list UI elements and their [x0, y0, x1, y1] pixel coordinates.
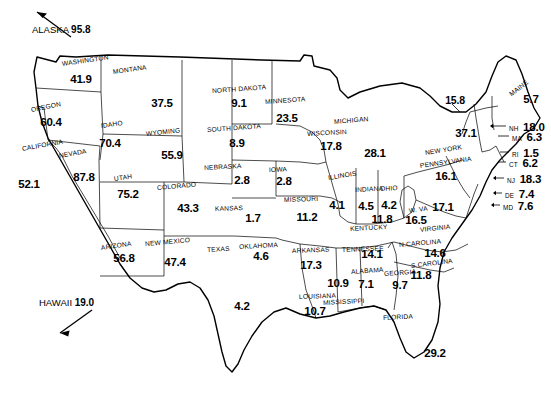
state-wyoming-value: 55.9	[161, 149, 183, 161]
state-kansas-label: KANSAS	[215, 204, 243, 212]
state-wisconsin-value: 17.8	[320, 140, 342, 152]
state-virginia-value: 17.1	[432, 201, 454, 213]
state-kansas-value: 1.7	[245, 212, 260, 224]
state-illinois-value: 4.1	[329, 199, 344, 211]
alaska-label: ALASKA	[32, 24, 68, 35]
state-ncarolina-value: 14.6	[424, 247, 446, 259]
callout-ma-value: 6.3	[526, 131, 541, 143]
us-map-figure: ALASKA 95.8 HAWAII 19.0 15.8 WASHINGTON4…	[0, 0, 551, 394]
state-minnesota-value: 23.5	[276, 112, 298, 124]
alaska-value: 95.8	[71, 24, 90, 35]
state-nevada-value: 87.8	[73, 171, 95, 183]
callout-md-abbr: MD	[503, 204, 513, 211]
state-arizona-value: 56.8	[113, 252, 135, 264]
state-ohio-value: 4.2	[381, 199, 396, 211]
state-missouri-value: 11.2	[297, 211, 318, 223]
state-tennessee-value: 14.1	[361, 248, 383, 260]
state-indiana-value: 4.5	[358, 200, 373, 212]
hawaii-value: 19.0	[75, 297, 94, 308]
state-iowa-value: 2.8	[276, 175, 291, 187]
callout-ct-abbr: CT	[509, 161, 518, 168]
state-mississippi-value: 10.9	[327, 277, 349, 289]
callout-ma-abbr: MA	[512, 135, 522, 142]
state-oklahoma-value: 4.6	[253, 250, 268, 262]
state-kentucky-value: 11.8	[372, 213, 393, 225]
state-westvirginia-value: 16.5	[405, 214, 427, 226]
state-nebraska-value: 2.8	[234, 174, 249, 186]
state-oregon-value: 60.4	[40, 116, 62, 128]
state-washington-value: 41.9	[70, 73, 92, 85]
offmap-note-alaska: ALASKA 95.8	[32, 24, 91, 35]
offmap-note-hawaii: HAWAII 19.0	[39, 297, 94, 308]
state-florida-value: 29.2	[424, 347, 446, 359]
state-newyork-value: 37.1	[455, 127, 477, 139]
state-pennsylvania-value: 16.1	[435, 170, 457, 182]
state-georgia-value: 9.7	[392, 279, 407, 291]
state-iowa-label: IOWA	[269, 165, 287, 173]
state-missouri-label: MISSOURI	[284, 195, 318, 203]
state-louisiana-value: 10.7	[304, 305, 326, 317]
state-colorado-value: 43.3	[177, 202, 199, 214]
state-california-value: 52.1	[18, 178, 40, 190]
state-utah-value: 75.2	[117, 188, 139, 200]
hawaii-label: HAWAII	[39, 297, 72, 308]
state-texas-label: TEXAS	[207, 245, 230, 253]
state-northdakota-value: 9.1	[231, 97, 246, 109]
callout-nj-abbr: NJ	[507, 177, 515, 184]
state-arkansas-value: 17.3	[300, 259, 322, 271]
state-michigan-value: 28.1	[364, 147, 386, 159]
state-vermont-value: 15.8	[445, 94, 465, 106]
callout-md: MD 7.6	[503, 196, 533, 214]
callout-md-value: 7.6	[518, 200, 533, 212]
state-idaho-value: 70.4	[99, 137, 121, 149]
callout-ct-value: 6.2	[522, 157, 537, 169]
state-montana-value: 37.5	[151, 97, 173, 109]
state-newmexico-value: 47.4	[164, 256, 186, 268]
state-scarolina-value: 11.8	[411, 269, 432, 281]
hawaii-arrow	[60, 310, 92, 333]
state-southdakota-value: 8.9	[229, 137, 244, 149]
state-alabama-value: 7.1	[358, 278, 373, 290]
state-texas-value: 4.2	[234, 300, 249, 312]
state-ohio-label: OHIO	[380, 184, 398, 192]
state-maine-value: 5.7	[523, 93, 538, 105]
state-arkansas-label: ARKANSAS	[292, 246, 330, 254]
